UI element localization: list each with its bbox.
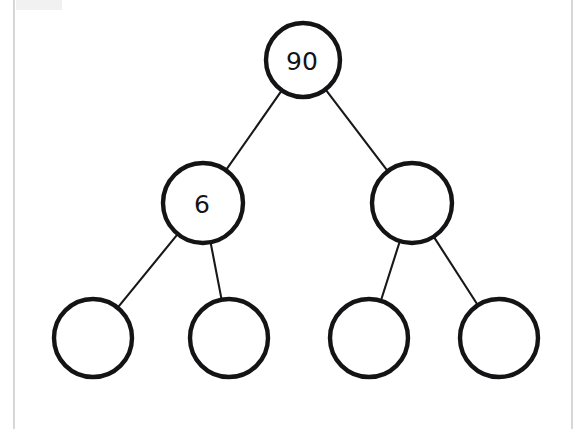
tree-edge-l1-1-to-l2-3 — [433, 236, 479, 307]
node-circle-l2-0[interactable] — [54, 299, 132, 377]
tree-edge-l1-1-to-l2-2 — [380, 240, 400, 302]
tree-node-l2-2-empty[interactable] — [330, 299, 408, 377]
node-circle-l2-1[interactable] — [190, 299, 268, 377]
node-circle-l2-3[interactable] — [460, 299, 538, 377]
binary-tree-diagram: 906 — [0, 0, 583, 429]
tree-node-root-filled[interactable]: 90 — [266, 23, 340, 97]
node-label-root: 90 — [286, 47, 318, 76]
tree-node-l1-0-filled[interactable]: 6 — [163, 163, 243, 243]
worksheet-page: 906 — [0, 0, 583, 429]
tree-edge-l1-0-to-l2-0 — [117, 233, 179, 309]
node-circle-l2-2[interactable] — [330, 299, 408, 377]
tree-edge-root-to-l1-1 — [325, 88, 389, 172]
tree-node-l2-1-empty[interactable] — [190, 299, 268, 377]
tree-node-l1-1-empty[interactable] — [372, 163, 452, 243]
tree-node-layer: 906 — [54, 23, 538, 377]
tree-edge-root-to-l1-0 — [225, 89, 282, 171]
node-label-l1-0: 6 — [194, 190, 210, 219]
tree-node-l2-3-empty[interactable] — [460, 299, 538, 377]
node-circle-l1-1[interactable] — [372, 163, 452, 243]
tree-edge-l1-0-to-l2-1 — [210, 241, 222, 301]
tree-node-l2-0-empty[interactable] — [54, 299, 132, 377]
